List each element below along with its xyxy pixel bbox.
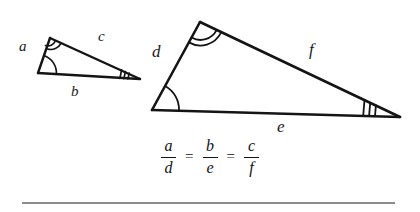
fraction-b-over-e: b e — [203, 138, 218, 177]
equals-sign-1: = — [185, 148, 193, 166]
large-triangle-group — [152, 22, 400, 117]
equals-sign-2: = — [227, 148, 235, 166]
fraction-bar — [203, 157, 218, 158]
small-triangle-label-c: c — [98, 29, 105, 44]
fraction-numerator: c — [245, 138, 258, 155]
small-triangle-side-c — [50, 38, 140, 79]
fraction-c-over-f: c f — [244, 138, 259, 177]
large-triangle-bottomleft-arc — [165, 86, 179, 111]
figure-canvas — [0, 0, 420, 212]
large-triangle-right-tick-3 — [375, 106, 376, 117]
fraction-denominator: d — [162, 160, 176, 177]
bottom-divider — [22, 202, 395, 204]
large-triangle-right-tick-1 — [363, 100, 364, 116]
large-triangle-label-d: d — [152, 43, 161, 60]
small-triangle-label-a: a — [19, 39, 27, 54]
fraction-denominator: e — [203, 160, 216, 177]
fraction-bar — [161, 157, 176, 158]
large-triangle-right-tick-2 — [369, 103, 370, 116]
small-triangle-group — [38, 38, 140, 79]
proportion-equation: a d = b e = c f — [0, 138, 420, 177]
small-triangle-bottomleft-arc — [44, 56, 57, 74]
large-triangle-label-e: e — [277, 118, 285, 135]
large-triangle-label-f: f — [309, 41, 314, 58]
small-triangle-label-b: b — [71, 84, 79, 99]
fraction-a-over-d: a d — [161, 138, 176, 177]
similar-triangles-figure: a b c d e f a d = b e = c f — [0, 0, 420, 212]
fraction-numerator: b — [203, 138, 217, 155]
fraction-bar — [244, 157, 259, 158]
fraction-denominator: f — [246, 160, 256, 177]
fraction-numerator: a — [162, 138, 176, 155]
